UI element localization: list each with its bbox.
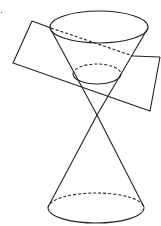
section-ellipse-back [73,64,121,74]
bottom-rim-front [48,208,144,223]
cutting-plane [13,21,160,111]
bottom-rim-back [48,193,144,208]
cone-plane-diagram [0,0,161,226]
top-cone-rim [50,11,148,43]
section-ellipse-front [73,74,121,84]
